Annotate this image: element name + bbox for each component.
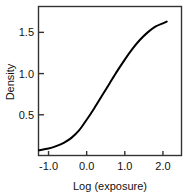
y-tick-label: 1.5 — [19, 26, 34, 38]
y-tick-label: 0.5 — [19, 109, 34, 121]
x-axis-title: Log (exposure) — [73, 180, 147, 192]
density-vs-log-exposure-chart: -1.00.01.02.0 0.51.01.5 Log (exposure) D… — [0, 0, 192, 196]
x-tick-label: 1.0 — [117, 160, 132, 172]
x-tick-label: 2.0 — [155, 160, 170, 172]
chart-figure: -1.00.01.02.0 0.51.01.5 Log (exposure) D… — [0, 0, 192, 196]
x-tick-label: 0.0 — [79, 160, 94, 172]
y-axis-title: Density — [4, 63, 16, 100]
y-tick-label: 1.0 — [19, 68, 34, 80]
x-tick-label: -1.0 — [39, 160, 58, 172]
